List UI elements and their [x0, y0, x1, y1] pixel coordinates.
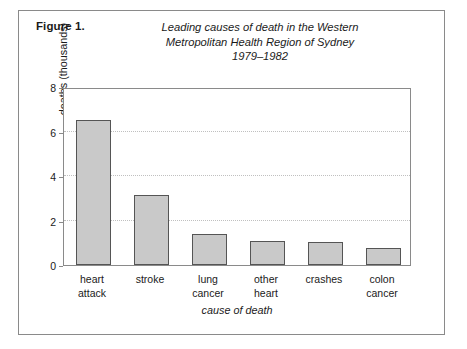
x-tick-label-line: other — [237, 273, 295, 287]
bar-chart: deaths (thousands) 02468 heartattackstro… — [19, 11, 444, 334]
bar-stroke — [134, 195, 169, 265]
x-axis-title: cause of death — [63, 304, 411, 316]
x-tick-label-line: heart — [63, 273, 121, 287]
x-tick-label-line: cancer — [353, 287, 411, 301]
x-tick-label-other-heart: otherheart — [237, 273, 295, 300]
x-tick-label-line: colon — [353, 273, 411, 287]
gridline-6 — [64, 131, 410, 132]
y-tick-mark-0 — [59, 266, 63, 267]
gridline-2 — [64, 220, 410, 221]
y-tick-label-8: 8 — [30, 83, 56, 93]
bar-lung-cancer — [192, 234, 227, 265]
bar-other-heart — [250, 241, 285, 265]
x-tick-label-line: stroke — [121, 273, 179, 287]
x-tick-label-line: attack — [63, 287, 121, 301]
gridline-4 — [64, 175, 410, 176]
x-tick-label-line: crashes — [295, 273, 353, 287]
bar-crashes — [308, 242, 343, 265]
bar-heart-attack — [76, 120, 111, 265]
y-tick-label-0: 0 — [30, 261, 56, 271]
x-tick-label-colon-cancer: coloncancer — [353, 273, 411, 300]
bar-colon-cancer — [366, 248, 401, 265]
x-tick-label-line: lung — [179, 273, 237, 287]
x-tick-label-crashes: crashes — [295, 273, 353, 287]
y-tick-label-4: 4 — [30, 172, 56, 182]
x-tick-label-line: heart — [237, 287, 295, 301]
y-tick-label-6: 6 — [30, 128, 56, 138]
x-tick-label-heart-attack: heartattack — [63, 273, 121, 300]
y-tick-label-2: 2 — [30, 217, 56, 227]
plot-area — [63, 88, 411, 266]
x-tick-label-line: cancer — [179, 287, 237, 301]
figure-frame: Figure 1. Leading causes of death in the… — [18, 10, 445, 335]
x-tick-label-lung-cancer: lungcancer — [179, 273, 237, 300]
x-tick-label-stroke: stroke — [121, 273, 179, 287]
